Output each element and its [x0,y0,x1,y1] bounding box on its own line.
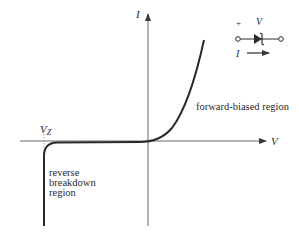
diode-triangle-icon [254,34,262,44]
x-axis-label: V [271,135,279,147]
y-axis-label: I [135,8,141,20]
terminal-right-icon [279,37,284,42]
iv-curve [44,40,204,226]
iv-characteristic-diagram: I V VZ forward-biased region reverse bre… [0,0,299,238]
terminal-left-icon [236,37,241,42]
symbol-voltage-label: V [256,16,264,27]
vz-label: VZ [40,123,52,137]
zener-diode-symbol: + V I [235,16,283,59]
forward-region-label: forward-biased region [196,101,290,112]
symbol-current-label: I [235,48,240,59]
plus-sign: + [236,18,241,28]
reverse-region-label-3: region [49,187,77,198]
